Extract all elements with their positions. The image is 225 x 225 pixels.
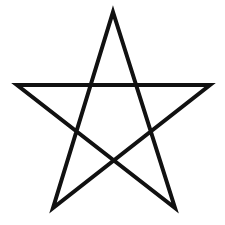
pentagram-star-icon xyxy=(0,0,225,225)
diagram-canvas xyxy=(0,0,225,225)
star-outline xyxy=(17,12,210,208)
